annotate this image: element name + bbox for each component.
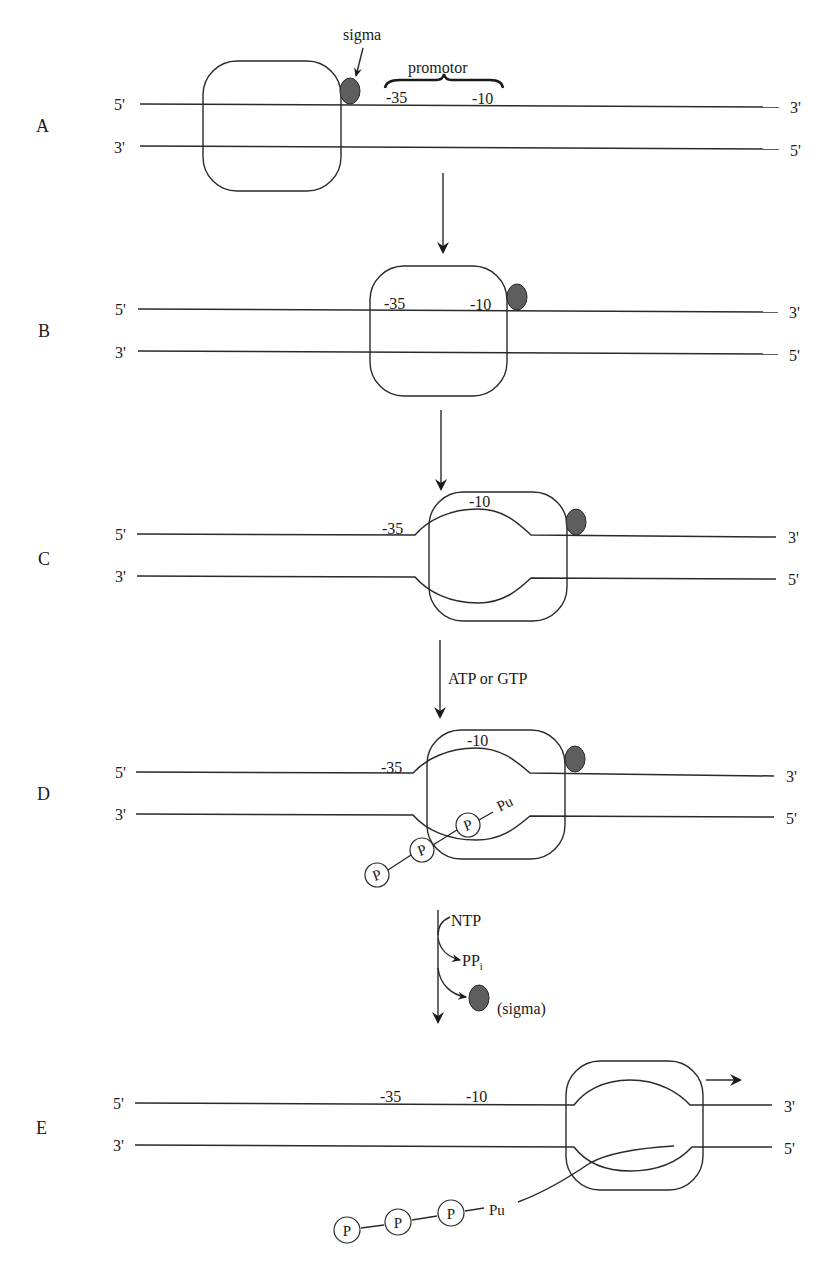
panel-label-c: C bbox=[38, 549, 50, 569]
panel-label-e: E bbox=[36, 1118, 47, 1138]
panel-a: A 5' 3' 3' 5' sigma promotor -35 -10 bbox=[36, 26, 801, 191]
promotor-label: promotor bbox=[408, 59, 468, 77]
panel-label-d: D bbox=[37, 784, 50, 804]
minus10-label: -10 bbox=[470, 296, 491, 313]
phosphate-bond bbox=[465, 1208, 484, 1211]
rna-polymerase-open-complex bbox=[427, 730, 565, 859]
panel-b: B 5' 3' 3' 5' -35 -10 bbox=[38, 266, 800, 396]
sigma-factor-icon bbox=[507, 284, 527, 310]
sigma-factor-icon bbox=[565, 746, 585, 772]
top-strand-5prime-label: 5' bbox=[113, 1095, 124, 1112]
bottom-strand-5prime-label: 5' bbox=[790, 142, 801, 159]
atp-gtp-label: ATP or GTP bbox=[448, 670, 528, 687]
minus35-label: -35 bbox=[381, 759, 402, 776]
dna-bottom-strand-melted bbox=[135, 1145, 772, 1171]
released-sigma-icon bbox=[469, 985, 489, 1011]
minus10-label: -10 bbox=[472, 90, 493, 107]
panel-label-b: B bbox=[38, 321, 50, 341]
phosphate-label: P bbox=[447, 1206, 455, 1222]
dna-bottom-strand bbox=[140, 146, 779, 149]
dna-top-strand bbox=[140, 104, 779, 107]
dna-top-strand-melted bbox=[136, 748, 774, 776]
top-strand-5prime-label: 5' bbox=[114, 96, 125, 113]
minus35-label: -35 bbox=[382, 520, 403, 537]
panel-c: C 5' 3' 3' 5' -35 -10 bbox=[38, 492, 799, 621]
rna-5prime-triphosphate: P P P Pu bbox=[334, 1200, 505, 1243]
rna-polymerase-core bbox=[203, 61, 341, 191]
top-strand-3prime-label: 3' bbox=[784, 1098, 795, 1115]
purine-label: Pu bbox=[489, 1202, 505, 1218]
bottom-strand-3prime-label: 3' bbox=[114, 139, 125, 156]
transcription-initiation-diagram: A 5' 3' 3' 5' sigma promotor -35 -10 B 5… bbox=[0, 0, 835, 1264]
dna-bottom-strand bbox=[138, 351, 778, 354]
bottom-strand-3prime-label: 3' bbox=[113, 1137, 124, 1154]
minus10-label: -10 bbox=[469, 493, 490, 510]
bottom-strand-3prime-label: 3' bbox=[115, 568, 126, 585]
top-strand-3prime-label: 3' bbox=[786, 768, 797, 785]
phosphate-bond bbox=[412, 1216, 437, 1220]
minus10-label: -10 bbox=[466, 1088, 487, 1105]
phosphate-label: P bbox=[394, 1215, 402, 1231]
minus35-label: -35 bbox=[380, 1088, 401, 1105]
transition-d-e: NTP PPi (sigma) bbox=[438, 910, 546, 1022]
nascent-rna-strand bbox=[518, 1146, 674, 1202]
top-strand-3prime-label: 3' bbox=[788, 529, 799, 546]
bottom-strand-5prime-label: 5' bbox=[788, 571, 799, 588]
rna-polymerase-open-complex bbox=[429, 492, 567, 621]
nucleoside-triphosphate: P P P Pu bbox=[365, 793, 516, 887]
minus35-label: -35 bbox=[384, 295, 405, 312]
purine-label: Pu bbox=[494, 793, 516, 814]
sigma-pointer-arrow bbox=[356, 48, 363, 76]
rna-polymerase-holoenzyme bbox=[370, 266, 507, 396]
bottom-strand-5prime-label: 5' bbox=[784, 1140, 795, 1157]
released-sigma-label: (sigma) bbox=[497, 1000, 546, 1018]
promotor-brace bbox=[385, 74, 503, 88]
top-strand-5prime-label: 5' bbox=[115, 301, 126, 318]
phosphate-bond bbox=[479, 812, 493, 820]
ntp-label: NTP bbox=[451, 912, 481, 929]
sigma-release-arrow bbox=[438, 968, 466, 997]
panel-e: E 5' 3' 3' 5' -35 -10 P P P Pu bbox=[36, 1061, 795, 1243]
dna-bottom-strand-melted bbox=[137, 576, 776, 603]
top-strand-5prime-label: 5' bbox=[115, 764, 126, 781]
bottom-strand-5prime-label: 5' bbox=[786, 810, 797, 827]
bottom-strand-5prime-label: 5' bbox=[789, 347, 800, 364]
minus10-label: -10 bbox=[467, 732, 488, 749]
ppi-output-arrow bbox=[438, 938, 460, 960]
bottom-strand-3prime-label: 3' bbox=[115, 344, 126, 361]
minus35-label: -35 bbox=[386, 89, 407, 106]
dna-top-strand bbox=[138, 309, 778, 312]
dna-top-strand-melted bbox=[137, 509, 776, 537]
sigma-factor-icon bbox=[340, 78, 360, 104]
bottom-strand-3prime-label: 3' bbox=[115, 806, 126, 823]
panel-label-a: A bbox=[36, 116, 49, 136]
top-strand-3prime-label: 3' bbox=[790, 99, 801, 116]
phosphate-bond bbox=[388, 855, 411, 870]
phosphate-label: P bbox=[343, 1223, 351, 1239]
ntp-input-curve bbox=[438, 917, 450, 935]
dna-bottom-strand-melted bbox=[136, 814, 774, 840]
dna-top-strand-melted bbox=[135, 1080, 772, 1105]
sigma-factor-icon bbox=[566, 509, 586, 535]
sigma-label: sigma bbox=[343, 26, 381, 44]
panel-d: D 5' 3' 3' 5' -35 -10 P P P Pu bbox=[37, 730, 797, 887]
phosphate-bond bbox=[361, 1225, 384, 1228]
top-strand-3prime-label: 3' bbox=[789, 304, 800, 321]
top-strand-5prime-label: 5' bbox=[115, 526, 126, 543]
ppi-label: PPi bbox=[462, 952, 483, 972]
